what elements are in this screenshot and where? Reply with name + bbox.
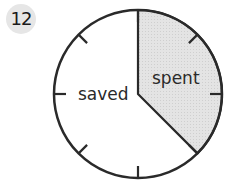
saved-label: saved xyxy=(78,84,129,104)
spent-label: spent xyxy=(152,68,200,88)
pie-chart: spent saved xyxy=(0,0,239,190)
